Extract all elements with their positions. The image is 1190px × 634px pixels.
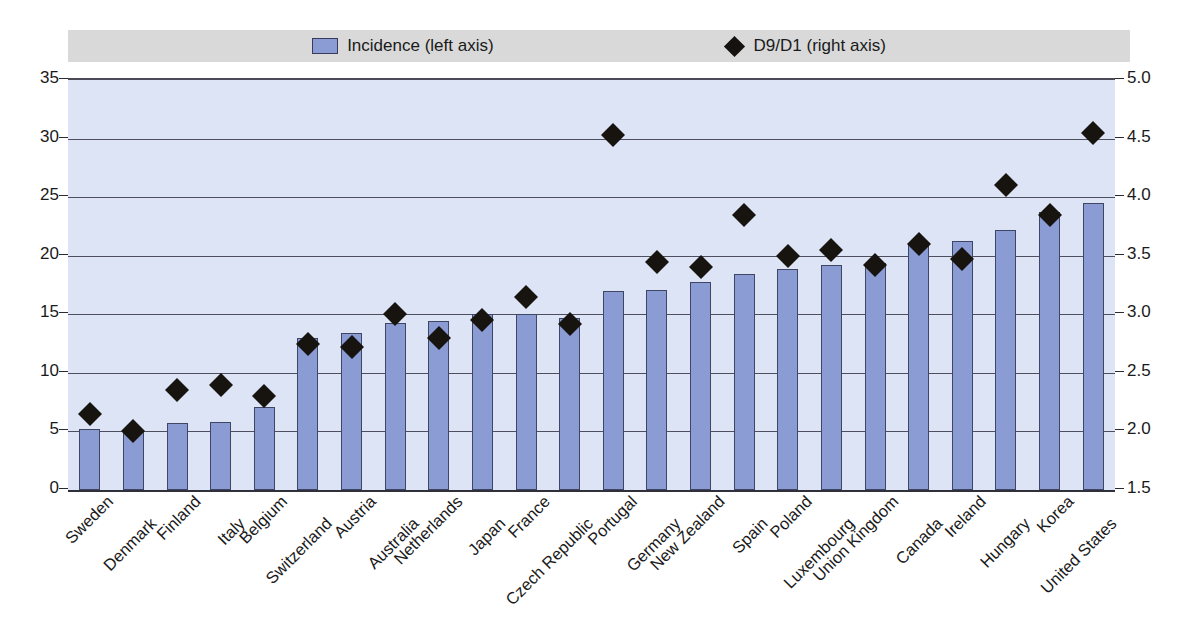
x-axis-category-label: Denmark — [100, 514, 161, 575]
scatter-marker — [732, 203, 756, 227]
legend-item-d9d1: D9/D1 (right axis) — [724, 36, 886, 57]
y-tick-label-right: 4.5 — [1127, 127, 1151, 147]
y-tick-label-left: 10 — [40, 361, 59, 381]
scatter-marker — [340, 335, 364, 359]
scatter-marker — [514, 285, 538, 309]
scatter-marker — [776, 244, 800, 268]
y-tick-label-left: 5 — [50, 419, 59, 439]
y-tick-label-left: 20 — [40, 244, 59, 264]
x-axis-category-label: Spain — [729, 514, 772, 557]
y-tick-mark-right — [1115, 488, 1124, 489]
y-tick-label-right: 5.0 — [1127, 68, 1151, 88]
x-axis-categories: SwedenDenmarkFinlandItalyBelgiumSwitzerl… — [68, 492, 1115, 632]
y-tick-mark-right — [1115, 254, 1124, 255]
y-tick-mark-left — [59, 195, 68, 196]
y-tick-label-right: 3.0 — [1127, 302, 1151, 322]
scatter-marker — [296, 332, 320, 356]
chart-legend: Incidence (left axis) D9/D1 (right axis) — [68, 30, 1130, 62]
y-tick-mark-right — [1115, 78, 1124, 79]
y-tick-label-right: 2.5 — [1127, 361, 1151, 381]
x-axis-category-label: Switzerland — [262, 514, 336, 588]
y-tick-mark-left — [59, 488, 68, 489]
y-tick-label-left: 30 — [40, 127, 59, 147]
scatter-marker — [907, 232, 931, 256]
scatter-marker — [78, 402, 102, 426]
legend-item-incidence: Incidence (left axis) — [312, 36, 493, 56]
chart-figure: Incidence (left axis) D9/D1 (right axis)… — [0, 0, 1190, 634]
scatter-marker — [121, 419, 145, 443]
x-axis-category-label: France — [504, 492, 554, 542]
scatter-marker — [1038, 203, 1062, 227]
bar-swatch-icon — [312, 38, 338, 54]
y-tick-label-left: 25 — [40, 185, 59, 205]
y-tick-label-left: 35 — [40, 68, 59, 88]
x-axis-category-label: Poland — [766, 492, 816, 542]
y-tick-label-right: 1.5 — [1127, 478, 1151, 498]
scatter-marker — [601, 123, 625, 147]
scatter-marker — [427, 326, 451, 350]
x-axis-category-label: Ireland — [941, 492, 990, 541]
legend-label-incidence: Incidence (left axis) — [347, 36, 493, 56]
scatter-marker — [1081, 121, 1105, 145]
x-axis-category-label: Canada — [892, 514, 946, 568]
scatter-marker — [165, 378, 189, 402]
legend-label-d9d1: D9/D1 (right axis) — [754, 36, 886, 56]
y-tick-label-right: 2.0 — [1127, 419, 1151, 439]
scatter-series-d9d1 — [68, 80, 1115, 490]
plot-area — [68, 78, 1115, 492]
y-tick-mark-right — [1115, 371, 1124, 372]
y-tick-label-left: 15 — [40, 302, 59, 322]
y-tick-label-right: 4.0 — [1127, 185, 1151, 205]
y-tick-mark-left — [59, 429, 68, 430]
y-tick-mark-left — [59, 137, 68, 138]
diamond-icon — [724, 36, 745, 57]
scatter-marker — [994, 173, 1018, 197]
scatter-marker — [558, 312, 582, 336]
x-axis-category-label: Japan — [465, 514, 510, 559]
y-tick-mark-right — [1115, 137, 1124, 138]
scatter-marker — [209, 373, 233, 397]
scatter-marker — [863, 253, 887, 277]
x-axis-category-label: Portugal — [584, 492, 641, 549]
x-axis-category-label: Hungary — [976, 514, 1034, 572]
x-axis-category-label: Austria — [330, 492, 380, 542]
y-tick-mark-right — [1115, 429, 1124, 430]
scatter-marker — [470, 308, 494, 332]
y-tick-mark-left — [59, 371, 68, 372]
scatter-marker — [383, 302, 407, 326]
scatter-marker — [950, 247, 974, 271]
scatter-marker — [819, 238, 843, 262]
y-tick-mark-left — [59, 78, 68, 79]
scatter-marker — [645, 250, 669, 274]
x-axis-category-label: Korea — [1032, 492, 1077, 537]
scatter-marker — [689, 255, 713, 279]
y-tick-mark-right — [1115, 312, 1124, 313]
x-axis-category-label: Finland — [153, 492, 205, 544]
y-tick-label-right: 3.5 — [1127, 244, 1151, 264]
x-axis-category-label: Sweden — [61, 492, 117, 548]
x-axis-category-label: Belgium — [236, 492, 292, 548]
y-tick-mark-right — [1115, 195, 1124, 196]
scatter-marker — [252, 384, 276, 408]
y-tick-label-left: 0 — [50, 478, 59, 498]
y-tick-mark-left — [59, 312, 68, 313]
y-tick-mark-left — [59, 254, 68, 255]
